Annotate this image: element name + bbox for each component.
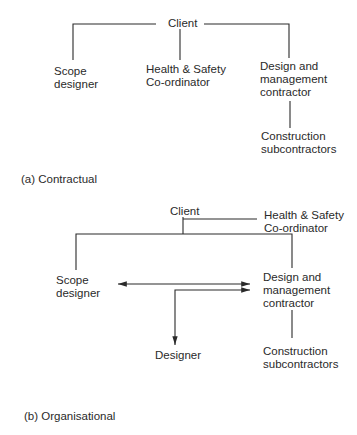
node-construction-sub: Construction subcontractors	[263, 345, 339, 370]
diagram-canvas: Client Scope designer Health & Safety Co…	[0, 0, 357, 435]
caption-b: (b) Organisational	[24, 410, 115, 422]
diagram-a-contractual: Client Scope designer Health & Safety Co…	[21, 17, 337, 185]
connector-client-scope	[73, 24, 156, 60]
node-designer: Designer	[155, 349, 201, 361]
node-dm-contractor: Design and management contractor	[263, 271, 333, 309]
node-client: Client	[168, 17, 198, 29]
connector-client-scope-dm	[76, 234, 292, 270]
diagram-b-connectors	[76, 217, 292, 345]
arrow-designer-dm	[175, 290, 250, 345]
node-dm-contractor: Design and management contractor	[260, 60, 330, 98]
node-health-safety: Health & Safety Co-ordinator	[146, 63, 229, 88]
diagram-b-organisational: Client Health & Safety Co-ordinator Scop…	[24, 205, 347, 422]
caption-a: (a) Contractual	[21, 173, 97, 185]
node-construction-sub: Construction subcontractors	[261, 130, 337, 155]
node-scope-designer: Scope designer	[54, 65, 98, 90]
node-client: Client	[170, 205, 200, 217]
node-scope-designer: Scope designer	[56, 274, 100, 299]
node-health-safety: Health & Safety Co-ordinator	[264, 209, 347, 234]
connector-client-dm	[204, 24, 289, 58]
